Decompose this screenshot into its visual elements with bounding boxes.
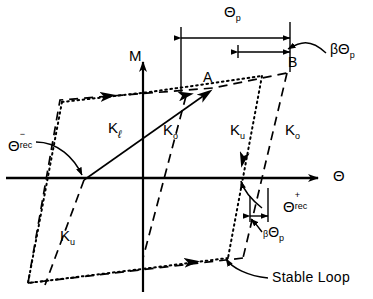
dimension-beta-theta-p [238, 45, 290, 58]
label-theta-rec-positive-sub: rec [295, 202, 308, 211]
label-k-u-2: Ku [60, 228, 75, 244]
label-theta-rec-positive-base: Θ [283, 198, 295, 215]
label-k-o-2-base: K [285, 121, 295, 138]
label-theta-p-sub: p [236, 13, 241, 23]
label-k-o-1-base: K [163, 121, 173, 138]
label-k-l: Kℓ [108, 120, 122, 136]
label-beta-theta-p-beta: β [330, 41, 338, 57]
label-theta-rec-negative-sub: rec [20, 141, 33, 150]
axis-label-moment: M [129, 48, 142, 63]
diagram-canvas [0, 0, 373, 299]
label-beta-theta-p-lower: βΘp [263, 224, 284, 240]
point-label-a: A [203, 70, 212, 84]
label-k-l-base: K [108, 119, 118, 136]
label-theta-rec-negative-sup: − [20, 130, 25, 139]
leader-stable-loop [226, 259, 268, 278]
label-k-o-2: Ko [285, 122, 300, 138]
label-theta-rec-negative: Θ − rec [8, 135, 42, 154]
label-k-o-2-sub: o [295, 131, 300, 141]
label-stable-loop: Stable Loop [272, 270, 350, 284]
label-beta-theta-p: βΘp [330, 41, 355, 57]
label-theta-rec-negative-base: Θ [8, 137, 20, 154]
direction-arrow-upper-dashed [150, 95, 186, 102]
label-k-l-sub: ℓ [118, 128, 122, 140]
label-k-u-2-sub: u [70, 237, 75, 247]
label-k-u-1-base: K [230, 121, 240, 138]
label-k-u-1-sub: u [240, 131, 245, 141]
label-k-u-2-base: K [60, 227, 70, 244]
leader-theta-rec-negative [36, 142, 82, 175]
point-label-b: B [288, 55, 297, 69]
leader-beta-theta-p-lower [251, 219, 262, 232]
axis-label-rotation: Θ [333, 168, 345, 183]
label-theta-rec-positive-sup: + [295, 191, 300, 200]
label-theta-rec-positive: Θ + rec [283, 196, 317, 215]
label-k-o-1: Ko [163, 122, 178, 138]
dotted-stable-loop [28, 76, 262, 283]
label-theta-p: Θp [224, 4, 241, 20]
label-k-u-1: Ku [230, 122, 245, 138]
label-theta-p-base: Θ [224, 3, 236, 20]
label-k-o-1-sub: o [173, 131, 178, 141]
secant-line-kl [84, 94, 206, 180]
hysteresis-figure: M Θ A B Θp βΘp βΘp Θ − rec Θ + rec Kℓ Ko… [0, 0, 373, 299]
label-beta-theta-p-sub: p [350, 50, 355, 60]
label-beta-theta-p-base: Θ [338, 40, 350, 57]
dimension-theta-p [181, 22, 290, 92]
label-beta-theta-p-lower-base: Θ [268, 224, 279, 240]
label-beta-theta-p-lower-sub: p [279, 233, 284, 243]
leader-beta-theta-p [288, 43, 326, 53]
